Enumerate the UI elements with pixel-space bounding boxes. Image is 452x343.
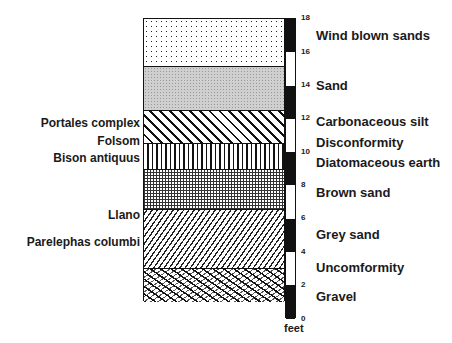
layer-label: Brown sand <box>316 185 390 200</box>
layer-label: Diatomaceous earth <box>316 155 440 170</box>
layer-sand <box>144 67 284 111</box>
depth-scale-bar <box>285 18 296 318</box>
scale-segment <box>286 285 295 319</box>
boundary-label: Uncomformity <box>316 260 404 275</box>
layer-label: Carbonaceous silt <box>316 114 429 129</box>
tick-label: 16 <box>301 47 310 56</box>
layer-label: Sand <box>316 78 348 93</box>
layer-diatomaceous-earth <box>144 144 284 170</box>
scale-segment <box>286 19 295 52</box>
culture-label: Portales complex <box>41 116 140 130</box>
tick-label: 10 <box>301 147 310 156</box>
layer-gravel <box>144 269 284 302</box>
scale-segment <box>286 252 295 285</box>
boundary-label: Disconformity <box>316 135 403 150</box>
scale-segment <box>286 86 295 119</box>
scale-segment <box>286 186 295 219</box>
layer-label: Grey sand <box>316 227 380 242</box>
tick-label: 6 <box>301 213 305 222</box>
tick-label: 12 <box>301 113 310 122</box>
fauna-label: Bison antiquus <box>53 151 140 165</box>
scale-segment <box>286 52 295 85</box>
layer-grey-sand <box>144 210 284 269</box>
tick-label: 2 <box>301 280 305 289</box>
layer-brown-sand <box>144 170 284 210</box>
scale-segment <box>286 152 295 185</box>
tick-label: 4 <box>301 247 305 256</box>
scale-segment <box>286 119 295 152</box>
culture-label: Folsom <box>97 134 140 148</box>
stratigraphic-column <box>143 18 285 301</box>
fauna-label: Parelephas columbi <box>27 235 140 249</box>
scale-segment <box>286 219 295 252</box>
layer-wind-blown-sands <box>144 19 284 67</box>
culture-label: Llano <box>108 208 140 222</box>
layer-label: Wind blown sands <box>316 28 430 43</box>
tick-label: 8 <box>301 180 305 189</box>
layer-carbonaceous-silt <box>144 111 284 144</box>
tick-label: 18 <box>301 13 310 22</box>
tick-label: 14 <box>301 80 310 89</box>
unit-label: feet <box>284 322 304 334</box>
layer-label: Gravel <box>316 289 356 304</box>
